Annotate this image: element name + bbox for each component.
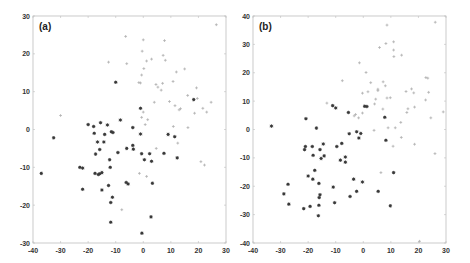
x-tick-label: -20	[303, 247, 313, 254]
asterisk-marker-icon	[173, 135, 177, 139]
data-point-light	[373, 129, 376, 132]
asterisk-marker-icon	[132, 147, 136, 151]
data-point-light	[367, 90, 370, 93]
data-point-light	[187, 126, 190, 129]
data-point-light	[161, 82, 164, 85]
asterisk-marker-icon	[102, 140, 106, 144]
data-point-light	[146, 118, 149, 121]
data-point-light	[374, 98, 377, 101]
data-point-light	[413, 106, 416, 109]
y-tick-label: 10	[22, 88, 30, 95]
data-point-light	[140, 74, 143, 77]
data-point-light	[381, 108, 384, 111]
data-point-light	[172, 80, 175, 83]
data-point-light	[125, 62, 128, 65]
y-tick-label: -40	[240, 240, 250, 247]
data-point-light	[203, 164, 206, 167]
asterisk-marker-icon	[365, 105, 369, 109]
data-point-light	[200, 160, 203, 163]
data-point-light	[140, 116, 143, 119]
data-point-light	[429, 116, 432, 119]
x-tick-label: -30	[56, 247, 66, 254]
data-point-light	[392, 40, 395, 43]
data-point-light	[373, 103, 376, 106]
asterisk-marker-icon	[111, 131, 115, 135]
asterisk-marker-icon	[313, 169, 317, 173]
asterisk-marker-icon	[100, 171, 104, 175]
data-point-light	[400, 54, 403, 57]
asterisk-marker-icon	[109, 201, 113, 205]
data-point-light	[424, 99, 427, 102]
data-point-light	[142, 38, 145, 41]
data-point-light	[195, 86, 198, 89]
data-point-light	[174, 104, 177, 107]
data-point-light	[361, 92, 364, 95]
asterisk-marker-icon	[317, 182, 321, 186]
asterisk-marker-icon	[355, 190, 359, 194]
asterisk-marker-icon	[86, 123, 90, 127]
data-point-light	[156, 86, 159, 89]
asterisk-marker-icon	[125, 147, 129, 151]
asterisk-marker-icon	[111, 195, 115, 199]
asterisk-marker-icon	[99, 121, 103, 125]
asterisk-marker-icon	[303, 148, 307, 152]
data-point-light	[386, 97, 389, 100]
asterisk-marker-icon	[347, 111, 351, 115]
data-point-light	[357, 116, 360, 119]
data-point-light	[392, 55, 395, 58]
data-point-light	[358, 61, 361, 64]
asterisk-marker-icon	[384, 138, 388, 142]
data-point-light	[412, 91, 415, 94]
data-point-light	[384, 42, 387, 45]
asterisk-marker-icon	[317, 196, 321, 200]
data-point-light	[107, 61, 110, 64]
data-point-light	[382, 80, 385, 83]
asterisk-marker-icon	[383, 115, 387, 119]
asterisk-marker-icon	[140, 231, 144, 235]
asterisk-marker-icon	[317, 214, 321, 218]
data-point-light	[145, 60, 148, 63]
asterisk-marker-icon	[334, 106, 338, 110]
y-tick-label: 30	[242, 41, 250, 48]
asterisk-marker-icon	[116, 151, 120, 155]
asterisk-marker-icon	[92, 131, 96, 135]
y-tick-label: -30	[20, 240, 30, 247]
asterisk-marker-icon	[81, 187, 85, 191]
data-point-light	[196, 97, 199, 100]
data-point-light	[405, 111, 408, 114]
data-point-light	[392, 49, 395, 52]
data-point-light	[160, 89, 163, 92]
scatter-panel-a: -40-30-20-100102030-30-20-100102030(a)	[20, 13, 230, 255]
asterisk-marker-icon	[347, 132, 351, 136]
asterisk-marker-icon	[52, 136, 56, 140]
asterisk-marker-icon	[333, 201, 337, 205]
asterisk-marker-icon	[126, 182, 130, 186]
asterisk-marker-icon	[319, 157, 323, 161]
x-tick-label: 20	[415, 247, 423, 254]
data-point-light	[365, 71, 368, 74]
asterisk-marker-icon	[311, 154, 315, 158]
data-point-light	[378, 46, 381, 49]
asterisk-marker-icon	[151, 181, 155, 185]
data-point-light	[186, 94, 189, 97]
x-tick-label: -10	[331, 247, 341, 254]
data-point-light	[142, 67, 145, 70]
asterisk-marker-icon	[143, 158, 147, 162]
asterisk-marker-icon	[315, 126, 319, 130]
asterisk-marker-icon	[175, 156, 179, 160]
data-point-light	[392, 145, 395, 148]
data-point-light	[410, 88, 413, 91]
asterisk-marker-icon	[150, 159, 154, 163]
asterisk-marker-icon	[139, 132, 143, 136]
x-tick-label: -10	[111, 247, 121, 254]
panel-label: (b)	[259, 21, 272, 32]
asterisk-marker-icon	[78, 166, 82, 170]
asterisk-marker-icon	[304, 145, 308, 149]
asterisk-marker-icon	[98, 148, 102, 152]
data-point-light	[138, 172, 141, 175]
scatter-panel-b: -40-30-20-100102030-40-30-20-10010203040…	[240, 13, 450, 255]
asterisk-marker-icon	[107, 184, 111, 188]
data-point-light	[210, 101, 213, 104]
data-point-light	[153, 101, 156, 104]
asterisk-marker-icon	[306, 174, 310, 178]
